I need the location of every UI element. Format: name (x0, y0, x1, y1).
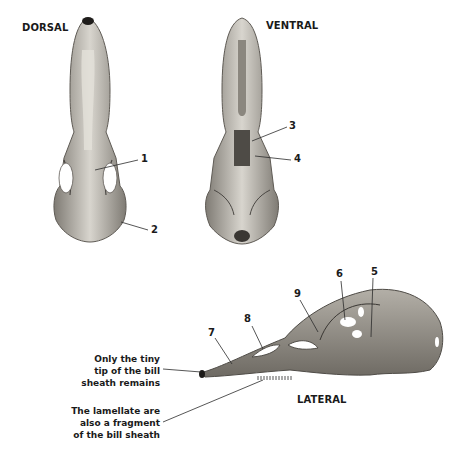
bill-tip-note: Only the tiny tip of the bill sheath rem… (70, 353, 160, 389)
dorsal-skull (54, 17, 126, 242)
label-5: 5 (371, 266, 378, 277)
label-9: 9 (294, 288, 301, 299)
label-6: 6 (336, 268, 343, 279)
label-4: 4 (294, 153, 301, 164)
ventral-skull (206, 18, 279, 244)
label-2: 2 (151, 224, 158, 235)
lateral-view-title: LATERAL (297, 394, 347, 405)
lateral-skull (199, 289, 443, 380)
ventral-view-title: VENTRAL (266, 20, 318, 31)
skull-illustrations (0, 0, 454, 468)
label-8: 8 (244, 313, 251, 324)
label-1: 1 (141, 153, 148, 164)
label-7: 7 (208, 327, 215, 338)
dorsal-view-title: DORSAL (22, 22, 68, 33)
label-3: 3 (289, 120, 296, 131)
lamellae-note: The lamellate are also a fragment of the… (60, 405, 160, 441)
